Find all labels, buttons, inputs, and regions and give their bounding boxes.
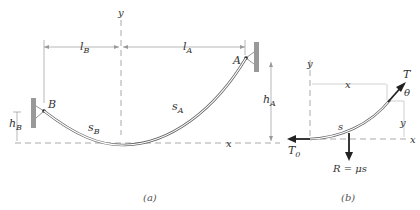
x-axis-label-b: x: [410, 134, 416, 145]
point-a-label: A: [232, 54, 241, 67]
wall-a: [254, 42, 259, 72]
figure-b: y x x y T θ T0 R = μs s (b): [287, 58, 416, 203]
s-a-label: sA: [172, 100, 184, 115]
s-b-label: sB: [88, 121, 100, 136]
figure-a: y x lB lA A B sB sA hA hB: [9, 7, 280, 203]
h-b-label: hB: [9, 117, 22, 132]
cable-diagram: y x lB lA A B sB sA hA hB: [0, 0, 420, 210]
y-dimension-label: y: [399, 117, 406, 128]
cable-a: [44, 58, 246, 145]
l-a-label: lA: [183, 40, 193, 55]
arc-label: s: [338, 121, 343, 132]
cable-b: [310, 100, 390, 139]
caption-a: (a): [143, 192, 157, 203]
tension-label: T: [403, 68, 412, 81]
x-axis-label-a: x: [226, 138, 232, 149]
h-a-label: hA: [263, 93, 276, 108]
wall-b: [31, 98, 36, 128]
t0-label: T0: [288, 144, 300, 159]
point-b-label: B: [47, 98, 56, 111]
angle-label: θ: [404, 87, 410, 98]
x-dimension-label: x: [345, 79, 351, 90]
l-b-label: lB: [80, 40, 90, 55]
y-axis-label-b: y: [306, 58, 313, 69]
resultant-label: R = μs: [332, 163, 367, 174]
y-axis-label-a: y: [117, 7, 124, 18]
caption-b: (b): [341, 192, 355, 203]
